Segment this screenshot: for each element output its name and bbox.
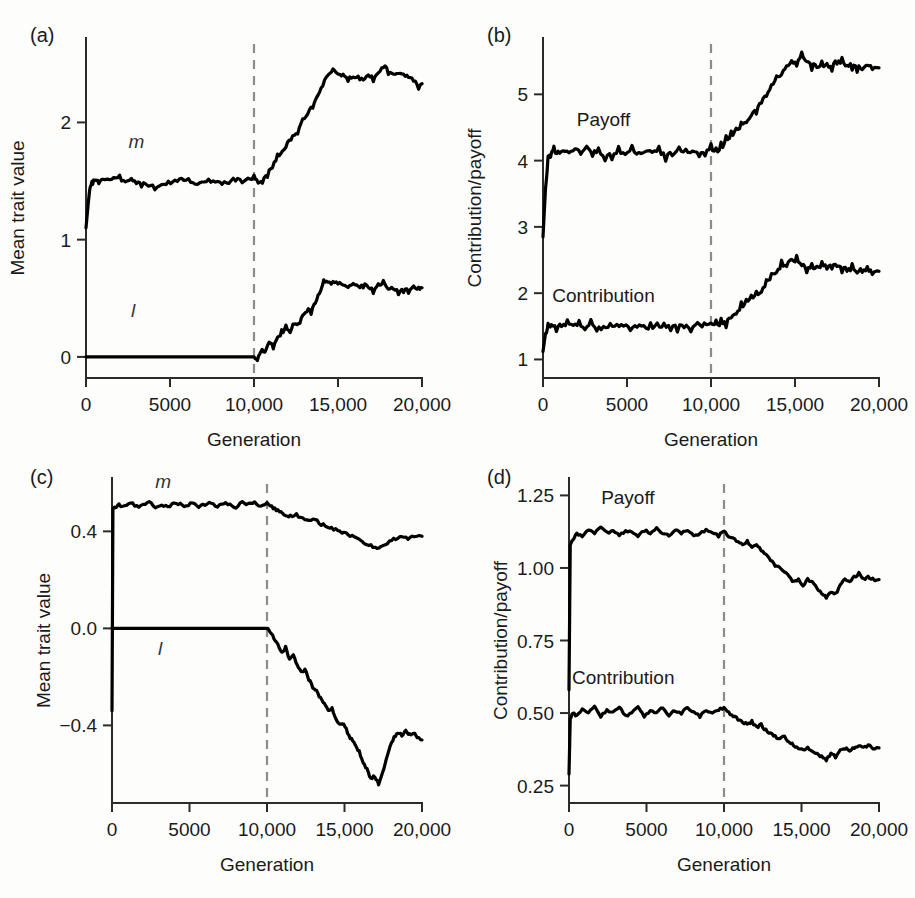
- x-tick-label: 20,000: [850, 819, 908, 840]
- y-tick-label: 4: [517, 151, 528, 172]
- x-tick-label: 10,000: [695, 819, 753, 840]
- x-tick-label: 20,000: [393, 819, 451, 840]
- x-tick-label: 15,000: [315, 819, 373, 840]
- series-annotation-m: m: [155, 471, 171, 492]
- y-tick-label: 2: [60, 112, 71, 133]
- y-axis-title: Contribution/payoff: [464, 128, 485, 288]
- series-annotation-payoff: Payoff: [577, 109, 631, 130]
- panel-letter-b: (b): [487, 24, 511, 46]
- y-tick-label: 0.50: [517, 703, 554, 724]
- x-tick-label: 5000: [606, 394, 648, 415]
- y-tick-label: 1.25: [517, 485, 554, 506]
- panel-letter-c: (c): [30, 466, 53, 488]
- y-axis-title: Mean trait value: [7, 140, 28, 275]
- panel-a-canvas: (a)0120500010,00015,00020,000GenerationM…: [0, 0, 458, 450]
- y-tick-label: 1: [517, 349, 528, 370]
- x-axis-title: Generation: [664, 429, 758, 450]
- x-tick-label: 10,000: [682, 394, 740, 415]
- series-annotation-contribution: Contribution: [552, 285, 654, 306]
- panel-a: (a)0120500010,00015,00020,000GenerationM…: [0, 0, 458, 450]
- panel-b: (b)123450500010,00015,00020,000Generatio…: [457, 0, 915, 450]
- x-tick-label: 5000: [168, 819, 210, 840]
- y-tick-label: −0.4: [59, 715, 97, 736]
- y-tick-label: 3: [517, 217, 528, 238]
- y-tick-label: 0.75: [517, 631, 554, 652]
- y-tick-label: 0.4: [71, 521, 98, 542]
- x-tick-label: 20,000: [393, 394, 451, 415]
- x-tick-label: 20,000: [850, 394, 908, 415]
- y-tick-label: 0.25: [517, 776, 554, 797]
- x-axis-title: Generation: [207, 429, 301, 450]
- x-tick-label: 0: [538, 394, 549, 415]
- panel-c-canvas: (c)−0.40.00.40500010,00015,00020,000Gene…: [0, 448, 458, 898]
- series-annotation-m: m: [128, 131, 144, 152]
- x-tick-label: 10,000: [225, 394, 283, 415]
- y-tick-label: 1: [60, 230, 71, 251]
- panel-d: (d)0.250.500.751.001.250500010,00015,000…: [457, 448, 915, 898]
- y-tick-label: 1.00: [517, 558, 554, 579]
- x-tick-label: 0: [81, 394, 92, 415]
- panel-letter-d: (d): [487, 466, 511, 488]
- x-tick-label: 10,000: [238, 819, 296, 840]
- panel-b-canvas: (b)123450500010,00015,00020,000Generatio…: [457, 0, 915, 450]
- x-tick-label: 5000: [149, 394, 191, 415]
- x-tick-label: 15,000: [309, 394, 367, 415]
- series-annotation-l: l: [131, 300, 136, 321]
- y-tick-label: 5: [517, 84, 528, 105]
- y-tick-label: 0: [60, 347, 71, 368]
- x-tick-label: 15,000: [772, 819, 830, 840]
- y-axis-title: Contribution/payoff: [490, 560, 511, 720]
- figure-container: (a)0120500010,00015,00020,000GenerationM…: [0, 0, 915, 898]
- x-tick-label: 15,000: [766, 394, 824, 415]
- panel-letter-a: (a): [30, 24, 54, 46]
- x-tick-label: 0: [107, 819, 118, 840]
- x-tick-label: 5000: [625, 819, 667, 840]
- series-annotation-payoff: Payoff: [601, 487, 655, 508]
- series-annotation-contribution: Contribution: [572, 667, 674, 688]
- series-annotation-l: l: [158, 638, 163, 659]
- y-axis-title: Mean trait value: [33, 573, 54, 708]
- x-axis-title: Generation: [220, 854, 314, 875]
- y-tick-label: 0.0: [71, 618, 97, 639]
- panel-d-canvas: (d)0.250.500.751.001.250500010,00015,000…: [457, 448, 915, 898]
- x-tick-label: 0: [564, 819, 575, 840]
- panel-c: (c)−0.40.00.40500010,00015,00020,000Gene…: [0, 448, 458, 898]
- x-axis-title: Generation: [677, 854, 771, 875]
- y-tick-label: 2: [517, 283, 528, 304]
